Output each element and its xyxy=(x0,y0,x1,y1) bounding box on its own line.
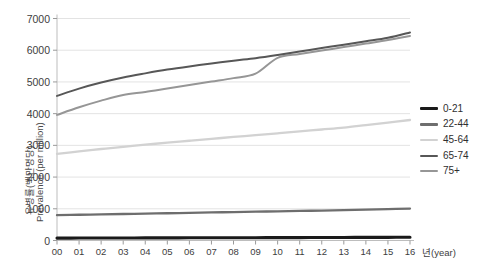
x-tick-label: 13 xyxy=(339,246,350,257)
series-line-0-21 xyxy=(57,237,410,238)
x-tick-label: 00 xyxy=(52,246,63,257)
x-tick-label: 02 xyxy=(96,246,107,257)
y-tick-label: 0 xyxy=(16,235,50,247)
legend-item-45-64[interactable]: 45-64 xyxy=(420,132,490,148)
y-tick-label: 4000 xyxy=(16,108,50,120)
x-tick-label: 01 xyxy=(74,246,85,257)
x-tick-label: 16 xyxy=(405,246,416,257)
legend-label: 0-21 xyxy=(443,104,463,114)
x-axis-title: 년(year) xyxy=(422,245,456,259)
legend-item-0-21[interactable]: 0-21 xyxy=(420,101,490,117)
legend-item-75plus[interactable]: 75+ xyxy=(420,163,490,179)
legend-swatch-icon xyxy=(420,155,438,157)
legend-label: 75+ xyxy=(443,166,460,176)
x-tick-label: 03 xyxy=(118,246,129,257)
y-tick-label: 3000 xyxy=(16,139,50,151)
x-tick-label: 07 xyxy=(206,246,217,257)
legend-swatch-icon xyxy=(420,170,438,172)
legend-label: 45-64 xyxy=(443,135,469,145)
y-tick-label: 5000 xyxy=(16,76,50,88)
legend-swatch-icon xyxy=(420,139,438,141)
series-line-65-74 xyxy=(57,32,410,95)
legend-swatch-icon xyxy=(420,123,438,125)
chart-legend: 0-2122-4445-6465-7475+ xyxy=(420,101,490,179)
y-tick-label: 6000 xyxy=(16,44,50,56)
y-axis-tick-labels: 01000200030004000500060007000 xyxy=(12,0,50,267)
x-tick-label: 04 xyxy=(140,246,151,257)
x-tick-label: 10 xyxy=(272,246,283,257)
legend-swatch-icon xyxy=(420,107,438,110)
y-tick-label: 1000 xyxy=(16,203,50,215)
legend-item-65-74[interactable]: 65-74 xyxy=(420,148,490,164)
plot-area xyxy=(0,0,492,267)
x-tick-label: 08 xyxy=(228,246,239,257)
series-line-45-64 xyxy=(57,120,410,154)
series-line-75plus xyxy=(57,36,410,115)
line-chart: 유병률(백만명당) Prevalence (per million) 01000… xyxy=(0,0,492,267)
x-tick-label: 06 xyxy=(184,246,195,257)
y-tick-label: 7000 xyxy=(16,13,50,25)
legend-item-22-44[interactable]: 22-44 xyxy=(420,117,490,133)
x-tick-label: 11 xyxy=(295,246,305,257)
series-line-22-44 xyxy=(57,209,410,216)
legend-label: 65-74 xyxy=(443,151,469,161)
x-tick-label: 15 xyxy=(383,246,394,257)
legend-label: 22-44 xyxy=(443,119,469,129)
x-tick-label: 12 xyxy=(316,246,327,257)
y-tick-label: 2000 xyxy=(16,171,50,183)
x-tick-label: 09 xyxy=(250,246,261,257)
x-tick-label: 14 xyxy=(361,246,372,257)
x-tick-label: 05 xyxy=(162,246,173,257)
